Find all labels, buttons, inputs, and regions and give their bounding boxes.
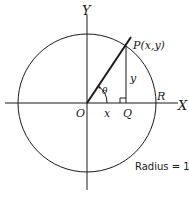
label-point-p: P(x,y): [132, 39, 165, 52]
label-point-r: R: [156, 90, 165, 103]
label-x-segment: x: [104, 107, 111, 120]
radius-line-op: [87, 37, 131, 103]
right-angle-marker: [120, 98, 126, 103]
unit-circle-diagram: Y X O P(x,y) Q R x y θ Radius = 1: [0, 0, 189, 202]
label-point-q: Q: [123, 107, 132, 120]
label-radius-note: Radius = 1: [135, 161, 189, 172]
label-x-axis: X: [177, 98, 188, 113]
label-angle-theta: θ: [102, 86, 108, 96]
label-y-segment: y: [129, 72, 137, 85]
label-origin: O: [76, 107, 85, 120]
label-y-axis: Y: [82, 3, 92, 18]
